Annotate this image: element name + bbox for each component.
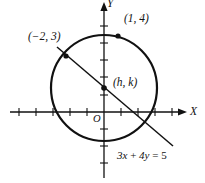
- equation-term-2: 4y: [139, 149, 149, 161]
- point-marker-center-hk: [101, 85, 107, 91]
- point-label-1-4: (1, 4): [124, 13, 149, 25]
- diagram-canvas: [0, 0, 205, 183]
- equation-rhs: 5: [161, 149, 167, 161]
- equation-term-1: 3x: [117, 149, 127, 161]
- point-marker-minus2-3: [63, 53, 68, 58]
- line-equation-label: 3x + 4y = 5: [117, 150, 167, 161]
- origin-label: O: [93, 114, 101, 125]
- center-label-hk: (h, k): [113, 77, 137, 89]
- point-label-minus2-3: (−2, 3): [28, 31, 61, 43]
- coordinate-geometry-figure: (1, 4) (−2, 3) (h, k) O X Y 3x + 4y = 5: [0, 0, 205, 183]
- point-marker-1-4: [115, 33, 120, 38]
- x-axis-label: X: [190, 106, 197, 118]
- y-axis-label: Y: [107, 0, 113, 10]
